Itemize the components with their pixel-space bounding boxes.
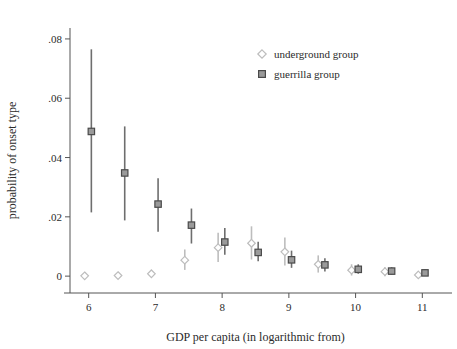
data-point-marker — [88, 128, 94, 134]
data-point-marker — [122, 170, 128, 176]
data-point-marker — [248, 239, 256, 247]
onset-probability-scatter-chart: 0.02.04.06.0867891011GDP per capita (in … — [0, 0, 457, 349]
data-point-marker — [322, 262, 328, 268]
data-point-marker — [348, 266, 356, 274]
x-axis-tick-label: 6 — [86, 301, 92, 313]
data-point-marker — [381, 268, 389, 276]
data-point-marker — [415, 271, 423, 279]
data-point-marker — [255, 249, 261, 255]
legend-item-label: underground group — [274, 48, 359, 60]
y-axis-tick-label: .04 — [48, 152, 62, 164]
data-point-marker — [81, 272, 89, 280]
chart-container: 0.02.04.06.0867891011GDP per capita (in … — [0, 0, 457, 349]
data-point-marker — [281, 248, 289, 256]
x-axis-tick-label: 7 — [153, 301, 159, 313]
data-point-marker — [314, 260, 322, 268]
legend-marker-square-icon — [259, 71, 266, 78]
data-point-marker — [222, 239, 228, 245]
chart-legend: underground groupguerrilla group — [258, 48, 359, 80]
data-point-marker — [188, 222, 194, 228]
x-axis-title: GDP per capita (in logarithmic from) — [166, 330, 345, 344]
data-point-marker — [288, 257, 294, 263]
data-point-marker — [214, 244, 222, 252]
data-point-marker — [148, 270, 156, 278]
legend-marker-diamond-icon — [258, 50, 266, 58]
data-point-marker — [181, 256, 189, 264]
x-axis-tick-label: 10 — [350, 301, 362, 313]
data-point-marker — [114, 272, 122, 280]
y-axis-tick-label: 0 — [57, 270, 63, 282]
y-axis-tick-label: .08 — [48, 33, 62, 45]
series-underground-group — [81, 226, 422, 279]
y-axis-tick-label: .06 — [48, 92, 62, 104]
data-point-marker — [155, 201, 161, 207]
data-point-marker — [355, 266, 361, 272]
data-point-marker — [422, 270, 428, 276]
y-axis-title: probability of onset type — [5, 102, 19, 220]
x-axis-tick-label: 11 — [417, 301, 428, 313]
y-axis-tick-label: .02 — [48, 211, 62, 223]
x-axis-tick-label: 8 — [219, 301, 225, 313]
x-axis-tick-label: 9 — [286, 301, 292, 313]
series-guerrilla-group — [88, 49, 428, 276]
legend-item-label: guerrilla group — [274, 68, 340, 80]
data-point-marker — [388, 268, 394, 274]
